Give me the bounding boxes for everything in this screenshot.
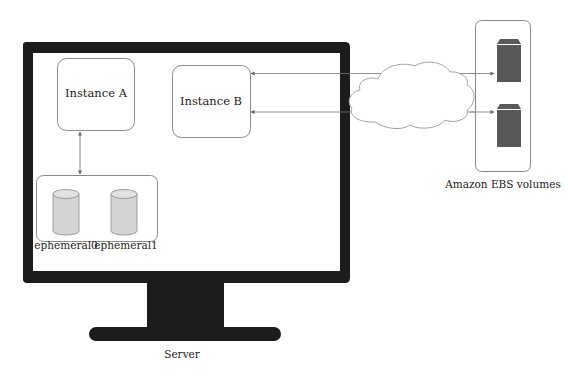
instance-b-label: Instance B	[180, 94, 242, 108]
diagram-canvas: Instance A Instance B ephemeral0 ephemer…	[0, 0, 566, 376]
monitor-stand-neck	[147, 283, 224, 329]
ebs-volumes-box	[470, 21, 531, 172]
ebs-volume-1-icon	[497, 39, 521, 82]
ephemeral0-label: ephemeral0	[34, 239, 97, 251]
monitor-stand-base	[89, 327, 281, 341]
ebs-volumes-label: Amazon EBS volumes	[444, 178, 561, 190]
instance-a-box: Instance A	[58, 59, 135, 131]
cloud-icon	[349, 62, 474, 128]
ebs-volume-2-icon	[497, 104, 521, 147]
ephemeral0-cylinder-icon	[53, 190, 79, 236]
instance-b-box: Instance B	[173, 66, 251, 138]
server-label: Server	[164, 348, 201, 360]
ephemeral1-label: ephemeral1	[94, 239, 157, 251]
ephemeral1-cylinder-icon	[111, 190, 137, 236]
ephemeral-store-box: ephemeral0 ephemeral1	[34, 176, 157, 252]
instance-a-label: Instance A	[65, 86, 128, 100]
